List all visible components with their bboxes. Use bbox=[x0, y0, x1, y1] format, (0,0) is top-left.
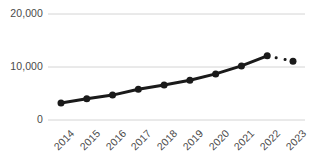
gridlines bbox=[48, 14, 305, 120]
series-line-solid bbox=[61, 56, 267, 103]
data-point-2014 bbox=[58, 100, 65, 107]
y-tick-label-20000: 20,000 bbox=[10, 7, 43, 19]
line-chart: 010,00020,000 20142015201620172018201920… bbox=[0, 0, 312, 165]
data-point-2023 bbox=[290, 58, 297, 65]
data-point-2015 bbox=[83, 95, 90, 102]
y-tick-label-10000: 10,000 bbox=[10, 60, 43, 72]
data-point-2022 bbox=[264, 52, 271, 59]
data-point-2017 bbox=[135, 86, 142, 93]
data-point-2016 bbox=[109, 92, 116, 99]
data-point-2019 bbox=[186, 77, 193, 84]
y-tick-label-0: 0 bbox=[37, 113, 43, 125]
data-series bbox=[61, 56, 293, 103]
series-line-dotted-projection bbox=[267, 56, 293, 61]
data-point-2018 bbox=[161, 82, 168, 89]
data-point-2021 bbox=[238, 62, 245, 69]
data-point-2020 bbox=[212, 70, 219, 77]
